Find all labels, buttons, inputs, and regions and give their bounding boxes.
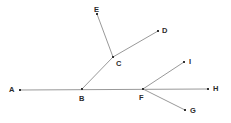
segment-AH [20,89,208,90]
point-marker-E [96,13,98,15]
segment-CD [113,31,158,57]
segment-BC [82,57,113,89]
point-marker-D [157,30,159,32]
segment-layer [20,14,208,110]
figure-svg [0,0,231,123]
point-marker-H [207,88,209,90]
segment-FG [143,89,185,110]
point-marker-C [112,56,114,58]
segment-CE [97,14,113,57]
geometry-figure: ABCDEFGHI [0,0,231,123]
point-marker-F [142,88,144,90]
segment-FI [143,62,184,89]
point-marker-A [19,89,21,91]
point-marker-I [183,61,185,63]
point-marker-B [81,88,83,90]
point-marker-G [184,109,186,111]
marker-layer [19,13,209,111]
